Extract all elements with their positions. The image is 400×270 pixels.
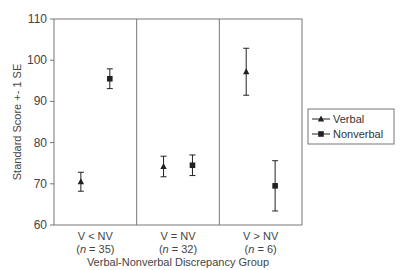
y-tick-label: 60 [34, 218, 48, 232]
data-point-nonverbal [189, 155, 195, 176]
category-n-label: (n = 6) [245, 243, 277, 255]
y-axis-title: Standard Score +- 1 SE [11, 64, 23, 180]
triangle-marker-icon [78, 178, 84, 184]
triangle-marker-icon [160, 163, 166, 169]
category-label: V > NV [243, 230, 279, 242]
data-point-nonverbal [107, 69, 113, 89]
category-n-label: (n = 32) [159, 243, 197, 255]
y-tick-label: 100 [27, 53, 47, 67]
data-point-verbal [78, 172, 84, 191]
plot-border [54, 19, 302, 225]
square-marker-icon [272, 183, 278, 189]
category-label: V = NV [160, 230, 196, 242]
y-tick-label: 90 [34, 94, 48, 108]
plot-frame [54, 19, 302, 225]
data-point-verbal [243, 48, 249, 95]
legend-label-verbal: Verbal [333, 113, 364, 125]
data-points [78, 48, 278, 211]
data-point-verbal [160, 156, 166, 177]
y-tick-label: 70 [34, 177, 48, 191]
y-tick-label: 80 [34, 136, 48, 150]
legend-label-nonverbal: Nonverbal [333, 128, 383, 140]
category-label: V < NV [78, 230, 114, 242]
x-axis: V < NV(n = 35)V = NV(n = 32)V > NV(n = 6… [76, 230, 279, 255]
square-marker-icon [318, 131, 324, 137]
triangle-marker-icon [243, 68, 249, 74]
chart: 60708090100110 V < NV(n = 35)V = NV(n = … [0, 0, 400, 270]
category-n-label: (n = 35) [76, 243, 114, 255]
y-axis: 60708090100110 [27, 12, 54, 232]
y-tick-label: 110 [28, 12, 47, 26]
data-point-nonverbal [272, 161, 278, 211]
legend: VerbalNonverbal [308, 109, 394, 144]
square-marker-icon [107, 76, 113, 82]
square-marker-icon [190, 162, 196, 168]
x-axis-title: Verbal-Nonverbal Discrepancy Group [87, 256, 269, 268]
